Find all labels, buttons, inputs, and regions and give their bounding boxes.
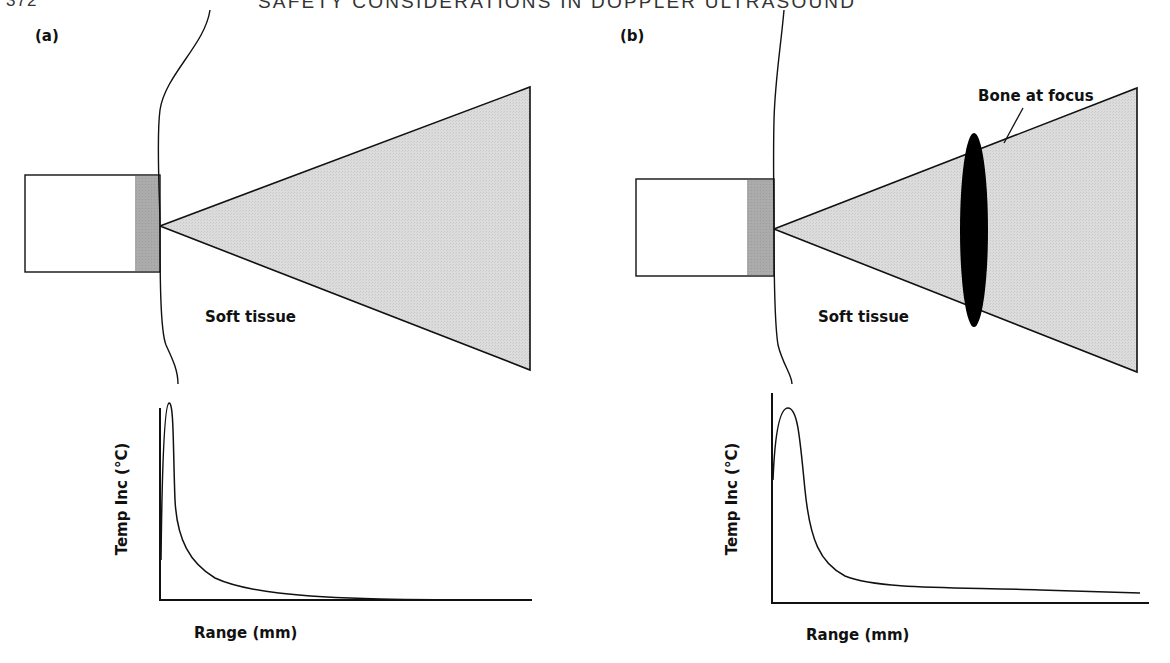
panel-a-diagram (25, 10, 530, 384)
panel-b-transducer-face (747, 180, 773, 275)
panel-b-temperature-curve (773, 408, 1140, 593)
panel-a-beam-cone (160, 87, 530, 370)
panel-a-temperature-curve (161, 403, 530, 600)
panel-b-beam-cone (774, 88, 1137, 372)
panel-b-temperature-graph (771, 393, 1149, 604)
panel-a-skin-surface-line (158, 10, 210, 384)
bone-ellipse (960, 133, 988, 327)
panel-b-diagram (636, 10, 1137, 384)
panel-a-temperature-graph (159, 403, 532, 601)
doppler-safety-diagram (0, 0, 1170, 663)
panel-a-transducer-face (135, 176, 159, 271)
panel-b-skin-surface-line (774, 10, 792, 384)
